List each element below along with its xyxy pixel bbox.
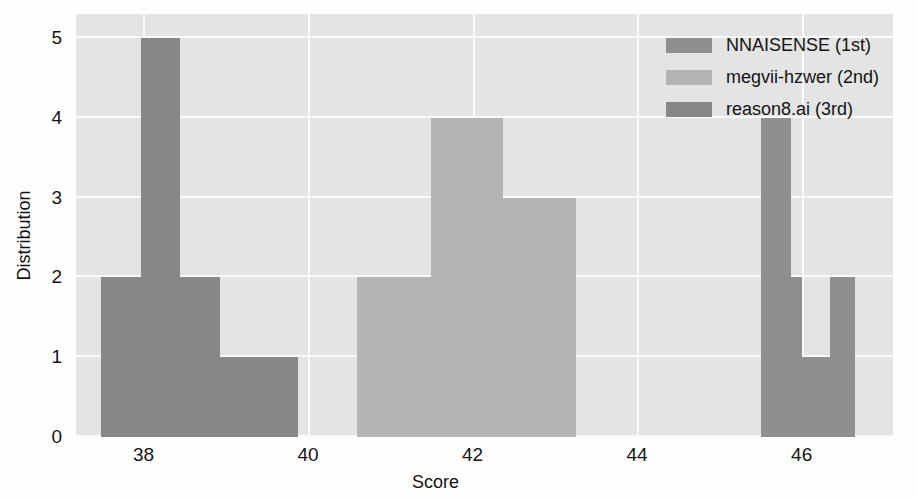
legend-swatch — [666, 102, 712, 117]
legend-item: NNAISENSE (1st) — [666, 30, 906, 60]
x-tick-label: 42 — [443, 444, 503, 466]
chart-figure: 012345 3840424446 Distribution Score NNA… — [0, 0, 917, 498]
gridline-vertical — [637, 14, 639, 437]
y-axis-label: Distribution — [14, 146, 35, 326]
histogram-bar — [259, 357, 298, 437]
y-tick-label: 4 — [14, 107, 62, 129]
histogram-bar — [791, 277, 802, 437]
x-tick-label: 44 — [607, 444, 667, 466]
gridline-vertical — [308, 14, 310, 437]
x-axis-label-text: Score — [412, 472, 459, 493]
x-tick-label: 46 — [772, 444, 832, 466]
histogram-bar — [141, 38, 180, 437]
histogram-bar — [357, 277, 430, 437]
histogram-bar — [802, 357, 831, 437]
histogram-bar — [761, 118, 791, 437]
x-tick-label: 38 — [113, 444, 173, 466]
histogram-bar — [220, 357, 259, 437]
y-tick-label: 5 — [14, 27, 62, 49]
histogram-bar — [431, 118, 503, 437]
chart-legend: NNAISENSE (1st)megvii-hzwer (2nd)reason8… — [666, 30, 906, 126]
histogram-bar — [180, 277, 219, 437]
x-tick-label: 40 — [278, 444, 338, 466]
legend-swatch — [666, 70, 712, 85]
y-tick-label: 1 — [14, 346, 62, 368]
legend-item: megvii-hzwer (2nd) — [666, 62, 906, 92]
legend-label: reason8.ai (3rd) — [726, 99, 853, 120]
legend-swatch — [666, 38, 712, 53]
legend-label: NNAISENSE (1st) — [726, 35, 871, 56]
x-axis-label: Score — [0, 472, 917, 493]
histogram-bar — [830, 277, 855, 437]
histogram-bar — [503, 198, 576, 437]
y-tick-label: 0 — [14, 426, 62, 448]
legend-item: reason8.ai (3rd) — [666, 94, 906, 124]
histogram-bar — [101, 277, 141, 437]
legend-label: megvii-hzwer (2nd) — [726, 67, 879, 88]
